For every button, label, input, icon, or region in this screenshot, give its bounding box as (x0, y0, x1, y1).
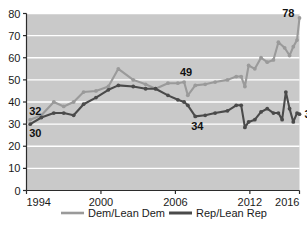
data-point (259, 56, 263, 60)
data-point (283, 46, 287, 50)
data-point (239, 75, 243, 79)
data-point (291, 45, 295, 49)
data-point (182, 80, 186, 84)
data-point (226, 78, 230, 82)
x-tick-label: 2012 (238, 196, 262, 208)
data-label-34: 34 (191, 120, 204, 132)
data-point (247, 64, 251, 68)
data-point (62, 105, 66, 109)
y-tick-label: 80 (8, 8, 20, 20)
data-point (82, 102, 86, 106)
data-point (265, 107, 269, 111)
data-point (284, 90, 288, 94)
data-point (116, 67, 120, 71)
y-tick-label: 40 (8, 96, 20, 108)
data-point (166, 93, 170, 97)
data-point (144, 87, 148, 91)
chart-legend: Dem/Lean DemRep/Lean Rep (61, 207, 267, 219)
data-point (243, 126, 247, 130)
data-point (52, 100, 56, 104)
data-point (28, 118, 32, 122)
data-point (107, 88, 111, 92)
x-tick-label: 1994 (27, 196, 51, 208)
data-point (131, 85, 135, 89)
y-tick-label: 60 (8, 52, 20, 64)
data-point (203, 82, 207, 86)
data-label-30: 30 (29, 127, 41, 139)
y-tick-label: 20 (8, 140, 20, 152)
data-point (272, 58, 276, 62)
data-point (234, 103, 238, 107)
data-point (144, 82, 148, 86)
data-point (186, 103, 190, 107)
data-point (291, 120, 295, 124)
data-point (186, 93, 190, 97)
x-tick-label: 2006 (163, 196, 187, 208)
data-point (176, 98, 180, 102)
data-point (193, 114, 197, 118)
data-point (295, 38, 299, 42)
data-label-49: 49 (180, 66, 192, 78)
data-point (131, 78, 135, 82)
legend-item-dem-lean-dem: Dem/Lean Dem (61, 207, 165, 219)
data-point (193, 84, 197, 88)
x-axis-ticks: 19942000200620122016 (27, 191, 300, 208)
data-point (213, 80, 217, 84)
chart-canvas: 01020304050607080 19942000200620122016 3… (0, 0, 307, 228)
data-point (298, 112, 302, 116)
data-point (94, 96, 98, 100)
data-point (277, 111, 281, 115)
data-point (213, 111, 217, 115)
data-point (82, 90, 86, 94)
data-point (272, 111, 276, 115)
x-tick-label: 2000 (89, 196, 113, 208)
y-tick-label: 10 (8, 162, 20, 174)
legend-label: Dem/Lean Dem (88, 207, 165, 219)
data-point (243, 85, 247, 89)
data-label-78: 78 (282, 7, 294, 19)
y-axis-ticks: 01020304050607080 (8, 8, 26, 197)
y-tick-label: 0 (14, 185, 20, 197)
data-point (72, 100, 76, 104)
legend-label: Rep/Lean Rep (196, 207, 267, 219)
x-tick-label: 2016 (275, 196, 299, 208)
y-tick-label: 50 (8, 74, 20, 86)
data-point (52, 111, 56, 115)
y-tick-label: 70 (8, 30, 20, 42)
data-point (247, 120, 251, 124)
data-point (116, 84, 120, 88)
data-point (203, 113, 207, 117)
data-point (62, 111, 66, 115)
data-point (253, 67, 257, 71)
line-chart: 01020304050607080 19942000200620122016 3… (0, 0, 307, 228)
data-point (166, 81, 170, 85)
data-point (72, 113, 76, 117)
data-point (107, 85, 111, 89)
data-point (265, 60, 269, 64)
data-point (253, 118, 257, 122)
data-point (259, 110, 263, 114)
data-point (28, 122, 32, 126)
data-point (288, 107, 292, 111)
data-point (298, 16, 302, 20)
data-label-35: 35 (305, 108, 308, 120)
data-point (277, 40, 281, 44)
data-point (239, 103, 243, 107)
data-point (154, 87, 158, 91)
legend-item-rep-lean-rep: Rep/Lean Rep (169, 207, 267, 219)
data-point (226, 109, 230, 113)
data-point (182, 100, 186, 104)
data-point (176, 81, 180, 85)
data-point (288, 54, 292, 58)
data-label-32: 32 (29, 105, 41, 117)
y-tick-label: 30 (8, 118, 20, 130)
data-point (280, 118, 284, 122)
data-point (234, 75, 238, 79)
data-point (94, 89, 98, 93)
